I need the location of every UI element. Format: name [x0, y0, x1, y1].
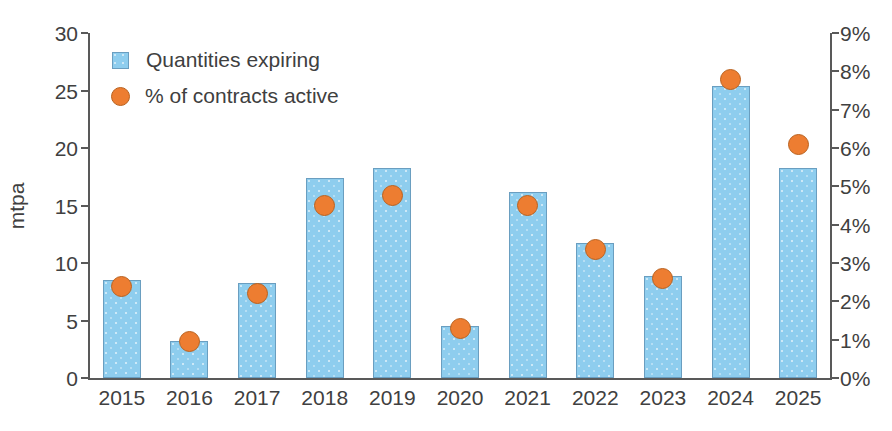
y-axis-right-tick [832, 70, 839, 72]
scatter-point [720, 69, 741, 90]
bar [644, 276, 682, 378]
y-axis-right-tick [832, 147, 839, 149]
y-axis-right-tick-label: 1% [840, 329, 870, 350]
legend-square-icon [112, 52, 129, 69]
x-axis-line [88, 378, 832, 380]
y-axis-left-tick [81, 377, 88, 379]
y-axis-right-tick [832, 339, 839, 341]
y-axis-left-tick [81, 32, 88, 34]
legend-circle-icon [111, 87, 130, 106]
y-axis-right-tick-label: 0% [840, 368, 870, 389]
y-axis-right-tick-label: 5% [840, 176, 870, 197]
y-axis-right-tick [832, 300, 839, 302]
y-axis-left-tick [81, 90, 88, 92]
y-axis-left-tick-label: 30 [55, 23, 78, 44]
y-axis-left-line [88, 33, 90, 378]
scatter-point [517, 195, 538, 216]
legend-item-percent-contracts-active: % of contracts active [112, 78, 339, 114]
y-axis-right-tick-label: 9% [840, 23, 870, 44]
y-axis-left-tick-labels: 051015202530 [0, 33, 78, 378]
y-axis-right-tick [832, 32, 839, 34]
scatter-point [585, 239, 606, 260]
chart-legend: Quantities expiring % of contracts activ… [112, 42, 339, 114]
y-axis-left-tick [81, 320, 88, 322]
bar [779, 168, 817, 378]
y-axis-left-tick-label: 20 [55, 138, 78, 159]
legend-item-quantities-expiring: Quantities expiring [112, 42, 339, 78]
y-axis-right-tick-label: 2% [840, 291, 870, 312]
y-axis-left-tick-label: 0 [66, 368, 78, 389]
scatter-point [179, 331, 200, 352]
y-axis-left-tick-label: 15 [55, 195, 78, 216]
scatter-point [450, 318, 471, 339]
chart-container: mtpa 051015202530 0%1%2%3%4%5%6%7%8%9% 2… [0, 0, 892, 431]
legend-label-quantities-expiring: Quantities expiring [146, 48, 320, 72]
scatter-point [111, 276, 132, 297]
y-axis-right-tick-label: 7% [840, 99, 870, 120]
y-axis-right-tick-label: 4% [840, 214, 870, 235]
y-axis-right-tick-label: 6% [840, 138, 870, 159]
y-axis-left-tick-label: 10 [55, 253, 78, 274]
y-axis-right-tick-label: 3% [840, 253, 870, 274]
y-axis-left-tick [81, 205, 88, 207]
y-axis-right-tick [832, 224, 839, 226]
y-axis-right-tick-label: 8% [840, 61, 870, 82]
legend-label-percent-contracts-active: % of contracts active [145, 84, 339, 108]
scatter-point [247, 283, 268, 304]
y-axis-right-tick [832, 377, 839, 379]
y-axis-left-tick-label: 5 [66, 310, 78, 331]
scatter-point [788, 134, 809, 155]
y-axis-left-tick-label: 25 [55, 80, 78, 101]
y-axis-right-tick [832, 262, 839, 264]
y-axis-right-line [830, 33, 832, 378]
bar [509, 192, 547, 378]
y-axis-left-tick [81, 262, 88, 264]
x-axis-tick-labels: 2015201620172018201920202021202220232024… [88, 386, 832, 420]
y-axis-right-tick [832, 109, 839, 111]
bar [576, 243, 614, 378]
y-axis-right-tick-labels: 0%1%2%3%4%5%6%7%8%9% [840, 33, 892, 378]
y-axis-left-tick [81, 147, 88, 149]
x-axis-tick-label: 2025 [758, 386, 838, 410]
y-axis-right-tick [832, 185, 839, 187]
bar [712, 86, 750, 378]
